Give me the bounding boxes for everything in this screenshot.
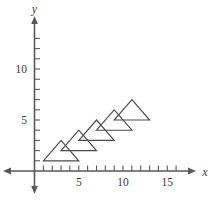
y-tick-label-10: 10: [16, 63, 28, 75]
x-axis-arrow-left: [3, 168, 11, 175]
coordinate-plane-svg: 5 10 15 5 10 x y: [0, 0, 224, 202]
y-axis: [31, 16, 38, 194]
y-tick-label-5: 5: [21, 114, 27, 126]
x-tick-label-5: 5: [76, 176, 82, 188]
x-tick-label-10: 10: [117, 176, 129, 188]
y-axis-label: y: [31, 2, 38, 16]
graph-figure: 5 10 15 5 10 x y: [0, 0, 224, 202]
y-axis-arrow-top: [31, 16, 38, 24]
y-axis-arrow-bottom: [31, 186, 38, 194]
triangle-5: [114, 100, 149, 120]
y-axis-ticks: [35, 38, 41, 160]
x-axis-arrow-right: [188, 168, 196, 175]
x-tick-label-15: 15: [162, 176, 174, 188]
x-axis-ticks: [43, 166, 176, 172]
y-tick-labels: 5 10: [16, 63, 28, 126]
triangle-group: [43, 100, 149, 161]
x-tick-labels: 5 10 15: [76, 176, 173, 188]
x-axis-label: x: [201, 165, 208, 179]
